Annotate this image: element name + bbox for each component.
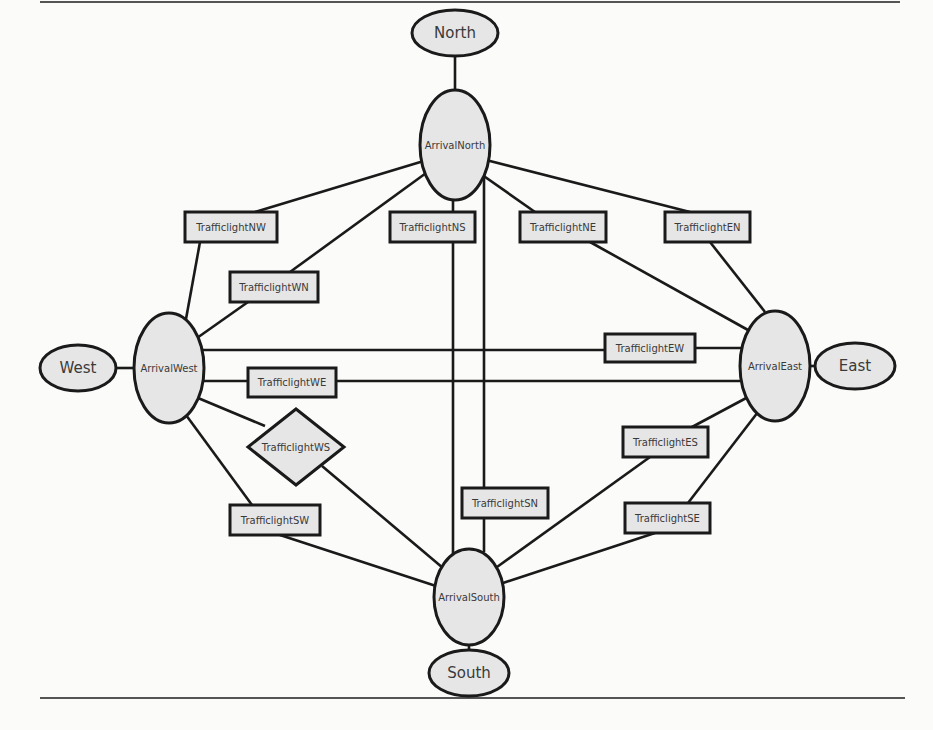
node-tl-sn: TrafficlightSN <box>462 488 548 518</box>
node-tl-ew: TrafficlightEW <box>605 334 695 362</box>
node-label: TrafficlightEW <box>615 343 685 354</box>
node-label: TrafficlightNW <box>195 222 266 233</box>
node-label: TrafficlightSW <box>240 515 310 526</box>
node-label: TrafficlightWN <box>238 282 309 293</box>
node-tl-nw: TrafficlightNW <box>185 212 277 242</box>
node-east: East <box>815 343 895 389</box>
node-label: South <box>447 664 491 682</box>
edge-tl-nw-to-arrival-west <box>186 242 200 319</box>
node-tl-es: TrafficlightES <box>623 427 708 457</box>
edge-arrival-north-to-tl-en <box>486 160 690 212</box>
edge-arrival-north-to-tl-nw <box>255 160 427 212</box>
node-label: TrafficlightNS <box>398 222 465 233</box>
node-label: North <box>434 24 476 42</box>
node-south: South <box>429 650 509 696</box>
node-label: ArrivalEast <box>748 361 802 372</box>
node-tl-we: TrafficlightWE <box>248 368 336 397</box>
node-label: ArrivalSouth <box>438 592 500 603</box>
edge-tl-en-to-arrival-east <box>710 242 765 312</box>
edge-tl-ws-to-arrival-south <box>322 466 443 568</box>
edge-tl-wn-to-arrival-west <box>197 302 248 338</box>
traffic-light-graph-diagram: NorthArrivalNorthWestArrivalWestArrivalE… <box>0 0 933 730</box>
edge-arrival-north-to-tl-ne <box>478 172 535 212</box>
node-label: TrafficlightWS <box>261 442 330 453</box>
edge-arrival-west-to-tl-sw <box>186 415 252 505</box>
node-tl-wn: TrafficlightWN <box>230 272 318 302</box>
node-west: West <box>40 345 116 391</box>
node-tl-ne: TrafficlightNE <box>520 212 606 242</box>
node-tl-se: TrafficlightSE <box>625 503 710 533</box>
node-label: ArrivalNorth <box>425 140 485 151</box>
graph-nodes: NorthArrivalNorthWestArrivalWestArrivalE… <box>40 10 895 696</box>
node-label: TrafficlightNE <box>529 222 596 233</box>
node-label: TrafficlightSN <box>471 498 538 509</box>
edge-arrival-west-to-tl-ws <box>198 398 265 426</box>
node-tl-sw: TrafficlightSW <box>230 505 320 535</box>
node-tl-en: TrafficlightEN <box>665 212 750 242</box>
edge-tl-ne-to-arrival-east <box>590 242 748 330</box>
node-north: North <box>412 10 498 56</box>
edge-arrival-east-to-tl-es <box>692 396 750 427</box>
node-label: ArrivalWest <box>140 363 197 374</box>
node-arrival-south: ArrivalSouth <box>434 549 504 645</box>
node-label: TrafficlightSE <box>634 513 700 524</box>
node-label: TrafficlightES <box>632 437 698 448</box>
node-label: TrafficlightEN <box>673 222 740 233</box>
node-label: TrafficlightWE <box>257 377 326 388</box>
node-tl-ns: TrafficlightNS <box>390 212 475 242</box>
node-label: West <box>60 359 97 377</box>
node-arrival-east: ArrivalEast <box>740 311 810 421</box>
edge-tl-se-to-arrival-south <box>503 533 655 583</box>
node-arrival-west: ArrivalWest <box>134 313 204 423</box>
node-label: East <box>839 357 871 375</box>
node-arrival-north: ArrivalNorth <box>420 90 490 200</box>
